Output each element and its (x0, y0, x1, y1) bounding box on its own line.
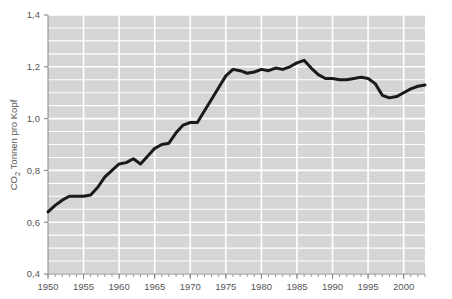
y-tick-label: 0,6 (27, 217, 40, 228)
x-tick-label: 1995 (358, 281, 379, 292)
x-tick-label: 2000 (393, 281, 414, 292)
y-tick-label: 1,0 (27, 113, 40, 124)
x-tick-label: 1950 (37, 281, 58, 292)
y-tick-label: 0,8 (27, 165, 40, 176)
x-tick-label: 1955 (73, 281, 94, 292)
x-tick-label: 1960 (109, 281, 130, 292)
x-tick-label: 1965 (144, 281, 165, 292)
y-tick-label: 1,2 (27, 61, 40, 72)
x-tick-label: 1990 (322, 281, 343, 292)
x-tick-label: 1970 (180, 281, 201, 292)
y-tick-label: 0,4 (27, 268, 40, 279)
chart-canvas: 1950195519601965197019751980198519901995… (0, 0, 452, 299)
x-axis-tick-labels: 1950195519601965197019751980198519901995… (37, 281, 414, 292)
y-tick-label: 1,4 (27, 9, 40, 20)
co2-per-capita-line-chart: 1950195519601965197019751980198519901995… (0, 0, 452, 299)
x-tick-label: 1980 (251, 281, 272, 292)
x-tick-label: 1975 (215, 281, 236, 292)
x-tick-label: 1985 (286, 281, 307, 292)
